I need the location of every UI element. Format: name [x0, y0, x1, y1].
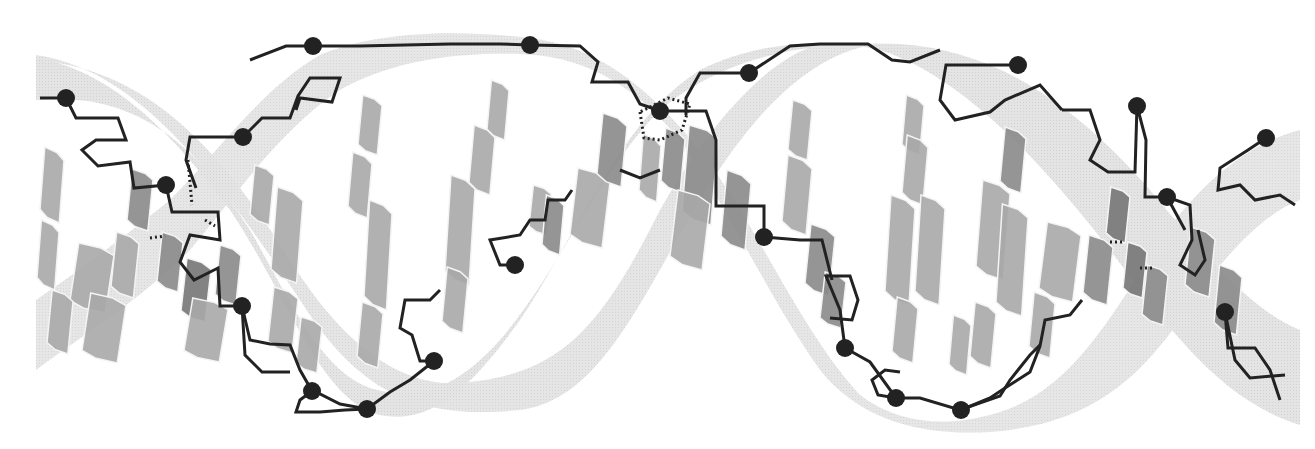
- phosphate-dot: [1257, 129, 1275, 147]
- base-slab: [82, 293, 126, 363]
- phosphate-dot: [304, 37, 322, 55]
- phosphate-dot: [358, 400, 376, 418]
- phosphate-dot: [740, 64, 758, 82]
- base-slab: [1000, 127, 1026, 193]
- base-slab: [1083, 235, 1113, 305]
- base-slab: [949, 315, 971, 375]
- base-slab: [1123, 242, 1147, 298]
- dna-helix-illustration: [0, 0, 1315, 449]
- base-slab: [111, 232, 139, 298]
- phosphate-dot: [1009, 56, 1027, 74]
- base-slab: [1106, 187, 1130, 243]
- base-slab: [542, 195, 564, 255]
- base-slab: [892, 297, 918, 363]
- base-slab: [47, 290, 73, 354]
- base-slab: [721, 170, 751, 250]
- base-slab: [357, 302, 383, 368]
- base-slab: [184, 298, 228, 362]
- base-slab: [670, 190, 710, 270]
- phosphate-dot: [234, 128, 252, 146]
- base-slab: [271, 187, 303, 283]
- phosphate-dot: [836, 339, 854, 357]
- phosphate-dot: [157, 176, 175, 194]
- base-slab: [1039, 222, 1081, 302]
- base-slab: [782, 155, 812, 235]
- base-slab: [1142, 265, 1168, 325]
- phosphate-dot: [57, 89, 75, 107]
- base-slab: [487, 80, 509, 140]
- phosphate-dot: [425, 352, 443, 370]
- base-slab: [996, 204, 1028, 316]
- phosphate-dot: [651, 102, 669, 120]
- base-slab: [40, 147, 64, 223]
- phosphate-dot: [1128, 97, 1146, 115]
- base-slab: [885, 195, 915, 305]
- dna-helix-figure: [0, 0, 1315, 449]
- base-slab: [469, 125, 495, 195]
- base-slab: [358, 95, 382, 155]
- base-slab: [296, 317, 322, 373]
- phosphate-dot: [506, 256, 524, 274]
- base-slab: [250, 165, 274, 225]
- phosphate-dot: [1158, 188, 1176, 206]
- base-slab: [1029, 292, 1055, 358]
- base-slab: [442, 267, 468, 333]
- base-slab: [970, 302, 996, 368]
- base-slab: [661, 128, 685, 192]
- base-slab: [37, 220, 59, 290]
- phosphate-dot: [1216, 303, 1234, 321]
- base-slab: [915, 195, 945, 305]
- phosphate-dot: [887, 389, 905, 407]
- phosphate-dot: [303, 382, 321, 400]
- base-slab: [902, 135, 928, 205]
- base-slab: [788, 100, 812, 160]
- base-slab: [597, 113, 627, 187]
- base-slab: [127, 169, 153, 231]
- phosphate-dot: [521, 36, 539, 54]
- phosphate-dot: [233, 297, 251, 315]
- phosphate-dot: [755, 228, 773, 246]
- phosphate-dot: [952, 401, 970, 419]
- base-slab: [639, 134, 661, 202]
- base-slab: [364, 200, 392, 310]
- backbone-segment: [400, 290, 440, 361]
